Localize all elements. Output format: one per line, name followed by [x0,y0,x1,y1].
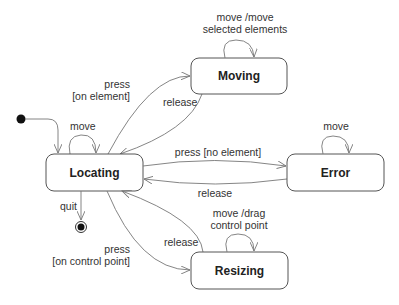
initial-state [17,115,26,124]
transition-error-release [144,179,287,184]
transition-press-no-element [143,161,286,167]
press-on-element-label-2: [on element] [72,90,130,102]
resizing-self-label-1: move /drag [213,207,266,219]
error-self-loop [322,136,349,154]
state-error-label: Error [321,166,351,180]
resizing-self-loop [226,234,254,252]
final-state [76,222,87,233]
error-self-label: move [323,120,349,132]
state-locating-label: Locating [70,166,120,180]
state-resizing-label: Resizing [215,264,264,278]
press-control-label-1: press [104,243,130,255]
resizing-self-label-2: control point [210,219,267,231]
moving-self-loop [224,40,254,58]
resizing-release-label: release [164,236,199,248]
error-release-label: release [198,187,233,199]
press-on-element-label-1: press [104,78,130,90]
quit-label: quit [60,200,77,212]
state-diagram: move press [on element] release Moving m… [0,0,399,305]
moving-self-label-1: move /move [216,11,273,23]
moving-release-label: release [163,96,198,108]
locating-self-loop [69,135,96,154]
locating-self-label: move [70,120,96,132]
moving-self-label-2: selected elements [203,23,288,35]
press-no-element-label: press [no element] [175,146,261,158]
state-moving-label: Moving [218,69,260,83]
press-control-label-2: [on control point] [52,255,130,267]
initial-transition [25,119,58,153]
